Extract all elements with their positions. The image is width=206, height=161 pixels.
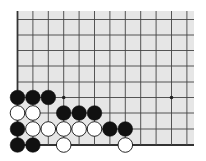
black-stone[interactable] (26, 90, 41, 105)
black-stone[interactable] (10, 138, 25, 153)
black-stone[interactable] (87, 106, 102, 121)
white-stone[interactable] (56, 122, 71, 137)
black-stone[interactable] (10, 122, 25, 137)
black-stone[interactable] (103, 122, 118, 137)
star-point-icon (62, 96, 66, 100)
black-stone[interactable] (10, 90, 25, 105)
white-stone[interactable] (56, 138, 71, 153)
white-stone[interactable] (41, 122, 56, 137)
black-stone[interactable] (72, 106, 87, 121)
white-stone[interactable] (72, 122, 87, 137)
black-stone[interactable] (41, 90, 56, 105)
black-stone[interactable] (118, 122, 133, 137)
white-stone[interactable] (118, 138, 133, 153)
white-stone[interactable] (26, 122, 41, 137)
go-board[interactable] (0, 0, 206, 161)
white-stone[interactable] (26, 106, 41, 121)
black-stone[interactable] (26, 138, 41, 153)
star-point-icon (170, 96, 174, 100)
black-stone[interactable] (56, 106, 71, 121)
white-stone[interactable] (10, 106, 25, 121)
white-stone[interactable] (87, 122, 102, 137)
